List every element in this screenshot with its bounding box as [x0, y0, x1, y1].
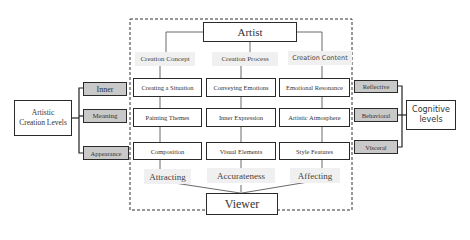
level-reflective: Reflective	[354, 80, 398, 93]
effect-attracting: Attracting	[144, 169, 191, 184]
viewer-to-affecting-line	[242, 182, 308, 193]
cell-composition: Composition	[133, 142, 202, 160]
cell-style-features: Style Features	[279, 142, 350, 160]
level-meaning: Meaning	[83, 109, 127, 123]
level-behavioral: Behavioral	[354, 108, 398, 122]
cell-inner-expression: Inner Expression	[206, 108, 276, 127]
cell-visual-elements: Visual Elements	[206, 142, 276, 160]
header-creation-content: Creation Content	[288, 51, 352, 65]
cognitive-levels-box: Cognitive levels	[406, 100, 456, 130]
artistic-creation-levels-box: Artistic Creation Levels	[14, 100, 72, 136]
header-creation-concept: Creation Concept	[135, 52, 195, 66]
artist-box: Artist	[203, 22, 297, 42]
level-visceral: Visceral	[354, 140, 398, 154]
right-bracket	[398, 86, 402, 147]
artist-to-content-line	[297, 32, 322, 52]
cell-painting-themes: Painting Themes	[133, 108, 202, 127]
cell-conveying-emotions: Conveying Emotions	[206, 78, 276, 97]
viewer-box: Viewer	[206, 193, 278, 215]
level-appearance: Appearance	[83, 146, 129, 160]
effect-accurateness: Accurateness	[207, 168, 275, 183]
cell-artistic-atmosphere: Artistic Atmosphere	[279, 108, 350, 127]
cell-creating-a-situation: Creating a Situation	[133, 78, 202, 97]
artist-to-concept-line	[166, 32, 203, 52]
effect-affecting: Affecting	[290, 168, 340, 183]
cell-emotional-resonance: Emotional Resonance	[279, 78, 350, 97]
level-inner: Inner	[83, 82, 127, 96]
header-creation-process: Creation Process	[212, 52, 278, 66]
